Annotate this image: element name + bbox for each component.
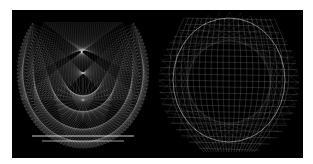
left-wireframe-graphic [12, 10, 155, 158]
right-wireframe-panel [155, 10, 303, 158]
left-wireframe-panel [12, 10, 155, 158]
right-wireframe-graphic [155, 10, 303, 158]
